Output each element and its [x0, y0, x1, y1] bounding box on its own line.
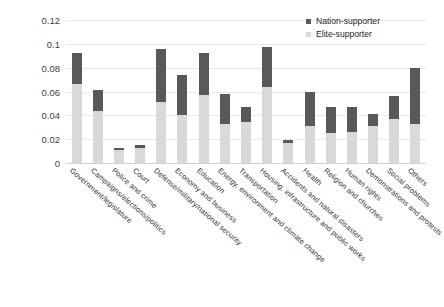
bar-segment-elite-supporter[interactable]: [220, 124, 230, 163]
bar-segment-elite-supporter[interactable]: [389, 119, 399, 163]
bar-segment-elite-supporter[interactable]: [241, 122, 251, 163]
bar-segment-nation-supporter[interactable]: [410, 68, 420, 124]
bar-stack[interactable]: [72, 53, 82, 163]
bar-segment-nation-supporter[interactable]: [72, 53, 82, 84]
bar-segment-elite-supporter[interactable]: [347, 132, 357, 163]
y-axis-tick-label: 0: [2, 158, 60, 169]
gridline: [66, 92, 426, 93]
bar-stack[interactable]: [347, 107, 357, 163]
bar-segment-elite-supporter[interactable]: [326, 133, 336, 163]
bar-segment-nation-supporter[interactable]: [389, 96, 399, 119]
bar-stack[interactable]: [368, 114, 378, 163]
plot-area: [66, 20, 426, 163]
bar-stack[interactable]: [93, 90, 103, 163]
bar-segment-nation-supporter[interactable]: [220, 94, 230, 124]
bar-segment-nation-supporter[interactable]: [156, 49, 166, 103]
bar-stack[interactable]: [220, 94, 230, 163]
bar-stack[interactable]: [241, 107, 251, 163]
legend-item-label: Elite-supporter: [316, 29, 372, 39]
bar-segment-nation-supporter[interactable]: [177, 75, 187, 116]
bar-segment-nation-supporter[interactable]: [262, 47, 272, 86]
bar-stack[interactable]: [305, 92, 315, 163]
y-axis-tick-label: 0.12: [2, 15, 60, 26]
bar-stack[interactable]: [177, 75, 187, 163]
gridline: [66, 68, 426, 69]
bar-segment-elite-supporter[interactable]: [156, 102, 166, 163]
bar-segment-nation-supporter[interactable]: [93, 90, 103, 110]
y-axis-tick-label: 0.04: [2, 110, 60, 121]
bar-segment-nation-supporter[interactable]: [305, 92, 315, 127]
bar-segment-nation-supporter[interactable]: [326, 107, 336, 133]
bar-segment-elite-supporter[interactable]: [177, 115, 187, 163]
axis-baseline: [66, 163, 426, 164]
legend-item-label: Nation-supporter: [316, 16, 380, 26]
bar-stack[interactable]: [326, 107, 336, 163]
bar-segment-elite-supporter[interactable]: [262, 87, 272, 163]
bar-stack[interactable]: [156, 49, 166, 163]
bar-segment-elite-supporter[interactable]: [410, 124, 420, 163]
bar-segment-elite-supporter[interactable]: [283, 143, 293, 163]
y-axis-tick-label: 0.08: [2, 62, 60, 73]
gridline: [66, 44, 426, 45]
legend-item[interactable]: Elite-supporter: [306, 29, 380, 39]
legend-color-swatch-icon: [306, 32, 311, 37]
bar-stack[interactable]: [262, 47, 272, 163]
bar-segment-nation-supporter[interactable]: [368, 114, 378, 126]
bar-segment-elite-supporter[interactable]: [368, 126, 378, 163]
bar-segment-nation-supporter[interactable]: [199, 53, 209, 95]
bar-segment-elite-supporter[interactable]: [72, 84, 82, 163]
y-axis-tick-label: 0.02: [2, 134, 60, 145]
legend-item[interactable]: Nation-supporter: [306, 16, 380, 26]
bar-segment-nation-supporter[interactable]: [347, 107, 357, 132]
chart-legend: Nation-supporterElite-supporter: [306, 16, 380, 39]
bar-stack[interactable]: [283, 140, 293, 163]
bar-stack[interactable]: [199, 53, 209, 163]
bar-segment-elite-supporter[interactable]: [135, 148, 145, 163]
legend-color-swatch-icon: [306, 19, 311, 24]
y-axis-tick-label: 0.06: [2, 86, 60, 97]
bar-stack[interactable]: [135, 145, 145, 163]
bar-segment-elite-supporter[interactable]: [93, 111, 103, 163]
y-axis-tick-label: 0.1: [2, 38, 60, 49]
bar-segment-elite-supporter[interactable]: [114, 150, 124, 163]
x-axis-category-labels: Government/legislatureCampaigns/election…: [66, 166, 434, 307]
bar-stack[interactable]: [389, 96, 399, 163]
bar-stack[interactable]: [114, 148, 124, 163]
bar-segment-elite-supporter[interactable]: [305, 126, 315, 163]
bar-segment-elite-supporter[interactable]: [199, 95, 209, 163]
bar-segment-nation-supporter[interactable]: [241, 107, 251, 122]
y-axis: 00.020.040.060.080.10.12: [0, 20, 60, 163]
bar-stack[interactable]: [410, 68, 420, 163]
